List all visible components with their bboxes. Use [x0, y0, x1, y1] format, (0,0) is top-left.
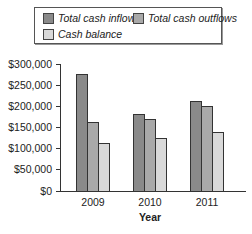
legend-swatch-balance — [43, 29, 54, 40]
legend-label: Total cash outflows — [148, 12, 237, 24]
x-axis-title: Year — [120, 211, 180, 223]
y-tick-label: $300,000 — [0, 58, 52, 70]
legend-item-balance: Cash balance — [43, 28, 122, 40]
legend-item-outflows: Total cash outflows — [133, 12, 237, 24]
x-tick-label: 2009 — [73, 196, 113, 208]
x-tick-label: 2010 — [130, 196, 170, 208]
y-tick-label: $250,000 — [0, 79, 52, 91]
legend-swatch-outflows — [133, 13, 144, 24]
bar-2009-balance — [98, 143, 110, 192]
legend-item-inflow: Total cash inflow — [43, 12, 135, 24]
legend-label: Total cash inflow — [58, 12, 135, 24]
y-tick-label: $0 — [0, 185, 52, 197]
bar-2011-balance — [212, 132, 224, 192]
y-tick-label: $200,000 — [0, 100, 52, 112]
legend: Total cash inflow Total cash outflows Ca… — [34, 7, 222, 44]
legend-label: Cash balance — [58, 28, 122, 40]
y-tick-label: $50,000 — [0, 163, 52, 175]
y-tick-label: $150,000 — [0, 121, 52, 133]
y-tick-label: $100,000 — [0, 142, 52, 154]
x-tick-label: 2011 — [187, 196, 227, 208]
bar-2010-balance — [155, 138, 167, 192]
y-axis — [60, 64, 61, 192]
cash-flow-chart: Total cash inflow Total cash outflows Ca… — [0, 0, 252, 234]
legend-swatch-inflow — [43, 13, 54, 24]
